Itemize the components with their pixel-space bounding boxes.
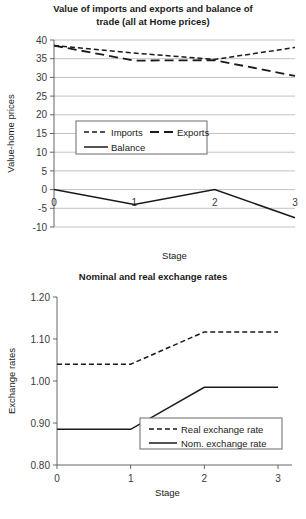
legend-label-real-exchange-rate: Real exchange rate [181,424,263,435]
y-tick-label: 10 [36,147,48,158]
y-tick-label: 1.00 [31,376,51,387]
y-axis-title: Value-home prices [5,94,16,173]
chart-title: Nominal and real exchange rates [79,271,227,282]
x-tick-label: 0 [51,197,57,208]
y-tick-label: 35 [36,53,48,64]
chart-title-line-1: Value of imports and exports and balance… [53,3,253,14]
y-tick-label: 20 [36,109,48,120]
x-axis-title: Stage [162,250,187,261]
x-tick-label: 2 [202,473,208,484]
series-line-exports [54,46,295,76]
y-tick-label: 0.90 [31,418,51,429]
y-tick-label: 30 [36,72,48,83]
series-line-real-exchange-rate [57,332,278,364]
y-tick-label: 1.20 [31,292,51,303]
y-tick-label: 0.80 [31,460,51,471]
chart-top-canvas: Value of imports and exports and balance… [0,0,306,265]
chart-exchange-rates: Nominal and real exchange rates0.800.901… [0,265,306,519]
y-tick-label: -5 [38,203,47,214]
y-axis-title: Exchange rates [6,348,17,414]
x-tick-label: 1 [128,473,134,484]
x-tick-label: 2 [212,197,218,208]
y-tick-label: 25 [36,91,48,102]
legend-label-imports: Imports [111,127,143,138]
x-tick-label: 3 [275,473,281,484]
y-tick-label: 0 [41,184,47,195]
series-line-balance [54,190,295,218]
x-tick-label: 0 [54,473,60,484]
legend-label-nom-exchange-rate: Nom. exchange rate [181,438,267,449]
chart-bottom-canvas: Nominal and real exchange rates0.800.901… [0,265,306,519]
legend-label-balance: Balance [111,142,145,153]
legend-label-exports: Exports [177,127,209,138]
chart-imports-exports-balance: Value of imports and exports and balance… [0,0,306,265]
chart-title-line-2: trade (all at Home prices) [96,16,210,27]
x-tick-label: 3 [292,197,298,208]
y-tick-label: 15 [36,128,48,139]
x-axis-title: Stage [155,487,180,498]
x-tick-label: 1 [132,197,138,208]
y-tick-label: 1.10 [31,334,51,345]
y-tick-label: -10 [33,222,48,233]
y-tick-label: 5 [41,166,47,177]
y-tick-label: 40 [36,35,48,46]
